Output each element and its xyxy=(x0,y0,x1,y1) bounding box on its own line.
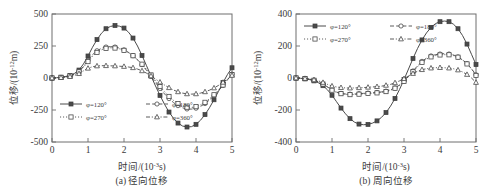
legend-item-120°[interactable]: φ=120° xyxy=(60,101,107,108)
marker-filled-square xyxy=(447,20,451,24)
x-tick-label: 5 xyxy=(474,145,479,155)
x-tick-label: 4 xyxy=(438,145,443,155)
legend-label: φ=120° xyxy=(86,101,107,108)
legend: φ=120°φ=180°φ=270°φ=360° xyxy=(304,23,437,43)
marker-open-square xyxy=(456,55,460,59)
y-axis-label: 位移/(10-12m) xyxy=(8,51,20,106)
marker-triangle xyxy=(447,65,452,69)
marker-filled-square xyxy=(104,27,108,31)
marker-filled-square xyxy=(95,38,99,42)
series-270° xyxy=(294,53,478,97)
y-tick-label: 400 xyxy=(278,9,293,19)
marker-open-square xyxy=(69,115,73,119)
x-tick-label: 3 xyxy=(402,145,407,155)
marker-filled-square xyxy=(140,53,144,57)
marker-filled-square xyxy=(384,111,388,115)
marker-open-square xyxy=(393,86,397,90)
legend: φ=120°φ=180°φ=270°φ=360° xyxy=(60,101,193,121)
marker-open-square xyxy=(384,90,388,94)
x-tick-label: 0 xyxy=(294,145,299,155)
marker-open-square xyxy=(420,60,424,64)
x-axis-label: 时间/(10-3s) xyxy=(362,161,410,173)
panel-caption: (b) 周向位移 xyxy=(359,175,412,187)
marker-filled-square xyxy=(465,42,469,46)
marker-filled-square xyxy=(212,98,216,102)
marker-triangle xyxy=(474,80,479,84)
marker-filled-square xyxy=(158,93,162,97)
x-axis-label: 时间/(10-3s) xyxy=(118,161,166,173)
panel-caption: (a) 径向位移 xyxy=(116,175,169,187)
marker-filled-square xyxy=(393,96,397,100)
marker-open-square xyxy=(212,93,216,97)
x-tick-label: 2 xyxy=(366,145,371,155)
marker-open-square xyxy=(348,93,352,97)
x-tick-label: 1 xyxy=(86,145,91,155)
svg-text:位移/(10-12m): 位移/(10-12m) xyxy=(252,51,264,106)
svg-text:位移/(10-12m): 位移/(10-12m) xyxy=(8,51,20,106)
marker-filled-square xyxy=(474,63,478,67)
marker-open-square xyxy=(194,105,198,109)
chart-panel-radial: 0123455002500-250-500位移/(10-12m)时间/(10-3… xyxy=(0,0,244,192)
marker-filled-square xyxy=(339,106,343,110)
marker-open-square xyxy=(375,91,379,95)
plot-frame xyxy=(296,14,476,142)
marker-open-square xyxy=(95,50,99,54)
marker-filled-square xyxy=(113,24,117,28)
legend-item-360°[interactable]: φ=360° xyxy=(146,114,193,121)
marker-filled-square xyxy=(122,26,126,30)
legend-label: φ=180° xyxy=(416,23,437,30)
marker-filled-square xyxy=(330,93,334,97)
series-120° xyxy=(294,20,478,127)
marker-filled-square xyxy=(456,27,460,31)
series-line xyxy=(296,55,476,95)
x-tick-label: 4 xyxy=(194,145,199,155)
y-axis-label: 位移/(10-12m) xyxy=(252,51,264,106)
legend-item-120°[interactable]: φ=120° xyxy=(304,23,351,30)
x-tick-label: 5 xyxy=(230,145,235,155)
x-tick-label: 3 xyxy=(158,145,163,155)
legend-item-360°[interactable]: φ=360° xyxy=(390,36,437,43)
marker-open-square xyxy=(465,62,469,66)
series-120° xyxy=(50,24,234,130)
marker-open-square xyxy=(122,48,126,52)
chart-panel-circumferential: 0123454002000-200-400位移/(10-12m)时间/(10-3… xyxy=(244,0,488,192)
legend-item-270°[interactable]: φ=270° xyxy=(60,114,107,121)
legend-item-180°[interactable]: φ=180° xyxy=(390,23,437,30)
marker-open-square xyxy=(339,92,343,96)
legend-label: φ=270° xyxy=(330,36,351,43)
y-tick-label: 0 xyxy=(287,73,292,83)
marker-open-square xyxy=(131,54,135,58)
marker-filled-square xyxy=(185,125,189,129)
x-axis: 012345 xyxy=(50,138,235,155)
legend-label: φ=270° xyxy=(86,114,107,121)
y-tick-label: 0 xyxy=(43,73,48,83)
marker-filled-square xyxy=(438,20,442,24)
marker-open-square xyxy=(86,60,90,64)
marker-open-square xyxy=(474,73,478,77)
marker-filled-square xyxy=(131,36,135,40)
marker-triangle xyxy=(167,85,172,89)
y-tick-label: 500 xyxy=(34,9,49,19)
legend-label: φ=360° xyxy=(416,36,437,43)
chart-svg-b: 0123454002000-200-400位移/(10-12m)时间/(10-3… xyxy=(244,0,488,192)
y-tick-label: -200 xyxy=(275,105,293,115)
x-tick-label: 1 xyxy=(330,145,335,155)
marker-triangle xyxy=(95,63,100,67)
marker-open-square xyxy=(447,53,451,57)
marker-open-square xyxy=(167,94,171,98)
marker-filled-square xyxy=(348,117,352,121)
x-axis: 012345 xyxy=(294,138,479,155)
legend-item-270°[interactable]: φ=270° xyxy=(304,36,351,43)
marker-open-square xyxy=(203,100,207,104)
y-tick-label: -500 xyxy=(31,137,49,147)
marker-triangle xyxy=(212,85,217,89)
marker-filled-square xyxy=(230,66,234,70)
marker-open-square xyxy=(330,88,334,92)
marker-triangle xyxy=(465,72,470,76)
legend-item-180°[interactable]: φ=180° xyxy=(146,101,193,108)
marker-filled-square xyxy=(357,122,361,126)
marker-open-square xyxy=(113,46,117,50)
x-tick-label: 0 xyxy=(50,145,55,155)
marker-open-square xyxy=(357,92,361,96)
marker-triangle xyxy=(86,66,91,70)
